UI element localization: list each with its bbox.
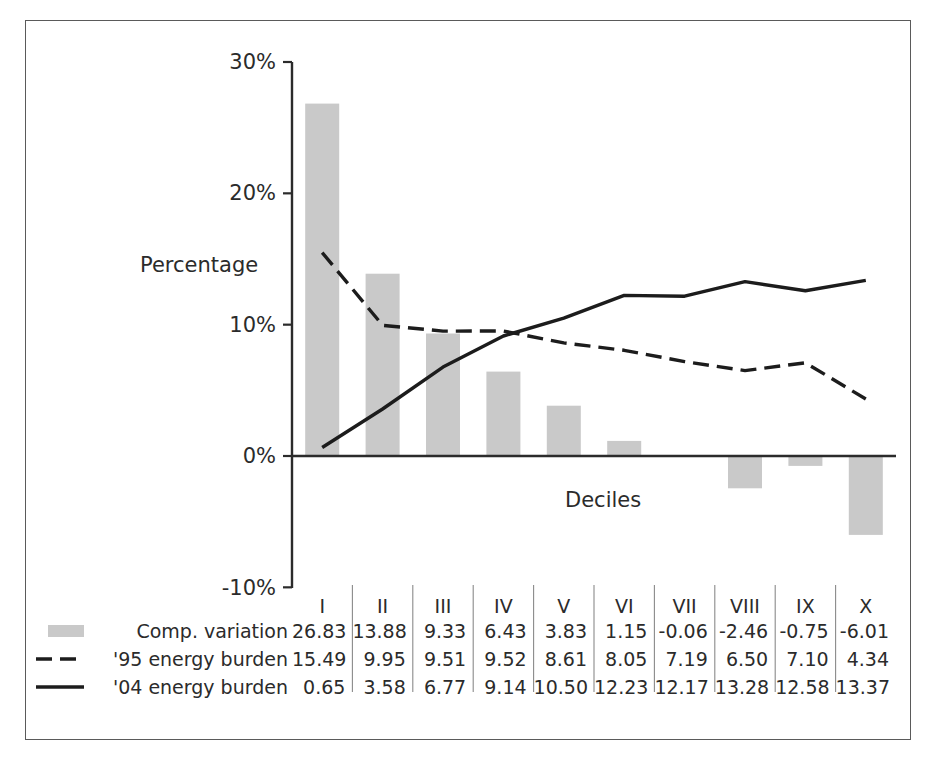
- legend-label-2: '04 energy burden: [86, 678, 288, 697]
- line-95-energy-burden: [322, 253, 866, 399]
- table-cell-IV-r0: 6.43: [473, 622, 526, 641]
- bar-IV: [486, 372, 520, 456]
- bar-X: [849, 456, 883, 535]
- series-line: [322, 253, 866, 399]
- table-cell-IX-r0: -0.75: [775, 622, 828, 641]
- y-tick-label-0: 0%: [196, 446, 276, 467]
- table-cell-VII-r1: 7.19: [654, 650, 707, 669]
- table-cell-I-r1: 15.49: [292, 650, 345, 669]
- bar-V: [547, 406, 581, 456]
- table-cell-VII-r2: 12.17: [654, 678, 707, 697]
- table-cell-III-r2: 6.77: [413, 678, 466, 697]
- table-cell-I-r2: 0.65: [292, 678, 345, 697]
- legend-markers-layer: [36, 625, 84, 687]
- table-cell-VIII-r1: 6.50: [715, 650, 768, 669]
- table-cell-VI-r0: 1.15: [594, 622, 647, 641]
- table-header-X: X: [836, 597, 896, 616]
- table-cell-IV-r1: 9.52: [473, 650, 526, 669]
- table-header-VI: VI: [594, 597, 654, 616]
- table-header-IX: IX: [775, 597, 835, 616]
- bars-layer: [305, 104, 883, 535]
- table-header-I: I: [292, 597, 352, 616]
- table-header-IV: IV: [473, 597, 533, 616]
- y-tick-label-minus10: -10%: [186, 578, 276, 599]
- table-cell-X-r1: 4.34: [836, 650, 889, 669]
- table-cell-IV-r2: 9.14: [473, 678, 526, 697]
- line-04-energy-burden: [322, 280, 866, 447]
- table-cell-II-r0: 13.88: [352, 622, 405, 641]
- table-cell-II-r1: 9.95: [352, 650, 405, 669]
- table-cell-V-r1: 8.61: [534, 650, 587, 669]
- table-cell-III-r1: 9.51: [413, 650, 466, 669]
- table-cell-X-r2: 13.37: [836, 678, 889, 697]
- table-cell-V-r2: 10.50: [534, 678, 587, 697]
- bar-III: [426, 334, 460, 457]
- y-axis-title: Percentage: [140, 255, 258, 276]
- table-cell-VII-r0: -0.06: [654, 622, 707, 641]
- table-cell-I-r0: 26.83: [292, 622, 345, 641]
- legend-swatch-comp-variation: [48, 625, 84, 637]
- series-line: [322, 280, 866, 447]
- table-cell-V-r0: 3.83: [534, 622, 587, 641]
- x-axis-title: Deciles: [565, 490, 641, 511]
- table-cell-VIII-r2: 13.28: [715, 678, 768, 697]
- y-tick-label-10: 10%: [196, 315, 276, 336]
- legend-label-0: Comp. variation: [86, 622, 288, 641]
- y-tick-label-20: 20%: [196, 183, 276, 204]
- bar-VIII: [728, 456, 762, 488]
- table-header-VIII: VIII: [715, 597, 775, 616]
- bar-IX: [788, 456, 822, 466]
- table-header-II: II: [352, 597, 412, 616]
- table-cell-VIII-r0: -2.46: [715, 622, 768, 641]
- bar-I: [305, 104, 339, 456]
- legend-label-1: '95 energy burden: [86, 650, 288, 669]
- bar-VI: [607, 441, 641, 456]
- table-cell-II-r2: 3.58: [352, 678, 405, 697]
- table-cell-III-r0: 9.33: [413, 622, 466, 641]
- table-header-V: V: [534, 597, 594, 616]
- table-cell-IX-r2: 12.58: [775, 678, 828, 697]
- table-header-III: III: [413, 597, 473, 616]
- table-cell-IX-r1: 7.10: [775, 650, 828, 669]
- table-cell-X-r0: -6.01: [836, 622, 889, 641]
- y-tick-label-30: 30%: [196, 52, 276, 73]
- table-cell-VI-r2: 12.23: [594, 678, 647, 697]
- bar-II: [366, 274, 400, 456]
- table-cell-VI-r1: 8.05: [594, 650, 647, 669]
- table-header-VII: VII: [654, 597, 714, 616]
